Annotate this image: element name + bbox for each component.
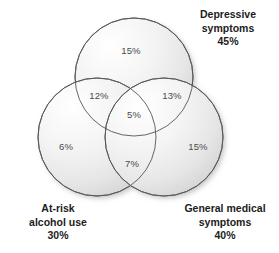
set-label-alcohol-line2: alcohol use <box>8 216 108 230</box>
set-label-alcohol: At-risk alcohol use 30% <box>8 202 108 243</box>
set-label-depressive-line1: Depressive <box>178 8 278 22</box>
venn-diagram-figure: 15% 12% 13% 5% 6% 15% 7% Depressive symp… <box>0 0 279 253</box>
region-value-alcohol-only: 6% <box>59 141 73 152</box>
set-label-alcohol-percent: 30% <box>8 229 108 243</box>
set-label-general-percent: 40% <box>172 229 278 243</box>
region-value-depressive-general: 13% <box>162 90 182 101</box>
region-value-general-only: 15% <box>188 141 208 152</box>
region-value-alcohol-general: 7% <box>125 158 139 169</box>
region-value-depressive-alcohol: 12% <box>89 90 109 101</box>
set-label-depressive: Depressive symptoms 45% <box>178 8 278 49</box>
region-value-depressive-only: 15% <box>121 45 141 56</box>
set-label-general-line2: symptoms <box>172 216 278 230</box>
set-label-general-line1: General medical <box>172 202 278 216</box>
set-label-depressive-percent: 45% <box>178 35 278 49</box>
set-label-general: General medical symptoms 40% <box>172 202 278 243</box>
region-value-all-three: 5% <box>127 109 141 120</box>
set-label-alcohol-line1: At-risk <box>8 202 108 216</box>
set-label-depressive-line2: symptoms <box>178 22 278 36</box>
